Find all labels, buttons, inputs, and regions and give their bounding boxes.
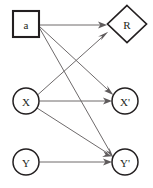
- edge-X-to-R-line: [38, 35, 105, 95]
- node-a-label: a: [24, 19, 29, 31]
- edge-Y-to-Yp: [40, 159, 113, 166]
- graph-svg: a R X X' Y Y': [0, 0, 153, 188]
- node-X-prime[interactable]: X': [112, 88, 138, 114]
- edge-a-to-Yp: [40, 28, 114, 158]
- node-X-prime-label: X': [120, 96, 130, 108]
- edge-a-to-R: [40, 22, 108, 29]
- node-a[interactable]: a: [13, 11, 39, 37]
- edge-a-to-Yp-line: [40, 28, 110, 152]
- node-Y[interactable]: Y: [13, 149, 39, 175]
- diagram-canvas: a R X X' Y Y': [0, 0, 153, 188]
- node-X[interactable]: X: [13, 88, 39, 114]
- node-R-label: R: [123, 19, 131, 31]
- node-R[interactable]: R: [108, 6, 147, 43]
- node-Y-prime-label: Y': [120, 157, 130, 169]
- node-Y-label: Y: [22, 157, 30, 169]
- node-X-label: X: [22, 96, 30, 108]
- node-Y-prime[interactable]: Y': [112, 149, 138, 175]
- node-layer: a R X X' Y Y': [13, 6, 147, 176]
- edge-X-to-Xp: [40, 98, 113, 105]
- edge-layer: [37, 22, 114, 166]
- edge-X-to-Yp: [37, 108, 112, 157]
- edge-X-to-R: [38, 32, 109, 95]
